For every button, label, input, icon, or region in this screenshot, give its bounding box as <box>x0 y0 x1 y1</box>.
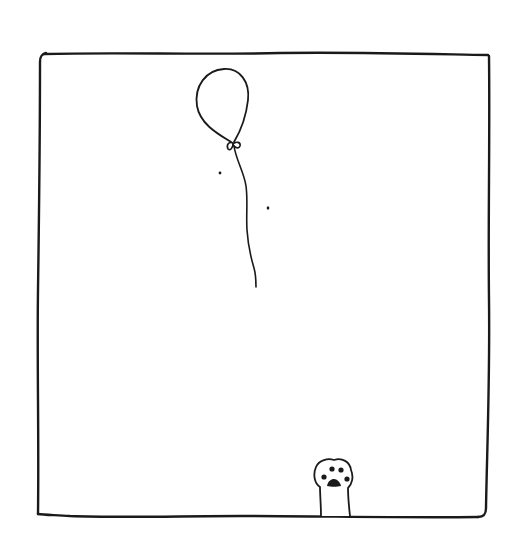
balloon-body <box>197 69 249 142</box>
cat-paw <box>314 459 352 516</box>
sketch-svg <box>0 0 520 552</box>
illustration-canvas <box>0 0 520 552</box>
panel-frame <box>38 53 490 518</box>
speck-right <box>267 206 270 210</box>
speck-left <box>219 172 222 175</box>
balloon <box>197 69 256 287</box>
balloon-string <box>234 146 256 287</box>
